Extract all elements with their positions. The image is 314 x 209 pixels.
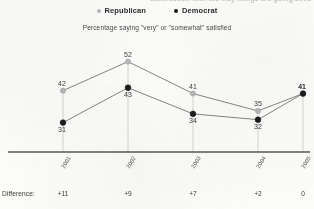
legend-label-democrat: Democrat bbox=[182, 6, 217, 15]
chart-title-text: satisfaction with the way things are goi… bbox=[150, 0, 314, 2]
chart-subtitle: Percentage saying "very" or "somewhat" s… bbox=[0, 24, 314, 31]
difference-value-2001: +11 bbox=[58, 190, 69, 197]
difference-row: Difference: +11+9+7+20 bbox=[0, 190, 314, 204]
data-point-republican-2004[interactable] bbox=[255, 108, 260, 113]
value-label-republican-2001: 42 bbox=[58, 80, 66, 87]
value-label-republican-2004: 35 bbox=[254, 100, 262, 107]
difference-value-2005: 0 bbox=[301, 190, 305, 197]
value-label-democrat-2005: 41 bbox=[298, 83, 306, 90]
chart-plot-area: 42524135413143343241 bbox=[0, 36, 314, 168]
legend-item-democrat[interactable]: Democrat bbox=[174, 6, 217, 15]
legend-label-republican: Republican bbox=[105, 6, 146, 15]
data-point-republican-2003[interactable] bbox=[190, 91, 195, 96]
chart-title-cropped: satisfaction with the way things are goi… bbox=[150, 0, 314, 5]
legend-item-republican[interactable]: Republican bbox=[97, 6, 146, 15]
legend-dot-republican-icon bbox=[97, 9, 101, 13]
data-point-republican-2001[interactable] bbox=[60, 88, 65, 93]
value-label-republican-2003: 41 bbox=[189, 83, 197, 90]
data-point-democrat-2005[interactable] bbox=[300, 91, 306, 97]
line-chart-svg: 42524135413143343241 bbox=[0, 36, 314, 168]
value-label-democrat-2003: 34 bbox=[189, 117, 197, 124]
difference-row-label: Difference: bbox=[2, 190, 35, 197]
data-point-republican-2002[interactable] bbox=[125, 59, 130, 64]
value-label-democrat-2001: 31 bbox=[58, 126, 66, 133]
value-label-republican-2002: 52 bbox=[124, 51, 132, 58]
difference-value-2004: +2 bbox=[254, 190, 262, 197]
difference-value-2003: +7 bbox=[189, 190, 197, 197]
chart-legend: Republican Democrat bbox=[0, 6, 314, 15]
value-label-democrat-2004: 32 bbox=[254, 123, 262, 130]
series-line-democrat bbox=[63, 88, 303, 123]
value-label-democrat-2002: 43 bbox=[124, 91, 132, 98]
difference-value-2002: +9 bbox=[124, 190, 132, 197]
x-axis-tick-labels: 20012002200320042005 bbox=[0, 166, 314, 190]
legend-dot-democrat-icon bbox=[174, 9, 178, 13]
